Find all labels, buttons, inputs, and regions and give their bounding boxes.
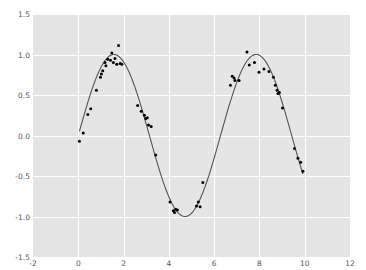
- x-tick-label: 4: [154, 259, 184, 268]
- x-tick-label: 6: [199, 259, 229, 268]
- scatter-point: [78, 140, 81, 143]
- scatter-point: [104, 61, 107, 64]
- scatter-point: [117, 44, 120, 47]
- y-tick-label: 1.5: [0, 10, 30, 19]
- data-layer: [33, 14, 350, 257]
- scatter-point: [140, 110, 143, 113]
- y-tick-label: 0.5: [0, 91, 30, 100]
- scatter-point: [299, 161, 302, 164]
- scatter-point: [100, 72, 103, 75]
- scatter-point: [136, 104, 139, 107]
- scatter-point: [248, 64, 251, 67]
- scatter-point: [281, 106, 284, 109]
- scatter-point: [201, 181, 204, 184]
- x-tick-label: -2: [18, 259, 48, 268]
- scatter-point: [110, 51, 113, 54]
- scatter-point: [272, 76, 275, 79]
- scatter-point: [276, 89, 279, 92]
- scatter-point: [293, 147, 296, 150]
- scatter-point: [168, 200, 171, 203]
- x-tick-label: 10: [290, 259, 320, 268]
- scatter-point: [82, 132, 85, 135]
- scatter-point: [86, 113, 89, 116]
- fitted-curve-line: [79, 55, 302, 217]
- scatter-point: [120, 63, 123, 66]
- chart-figure: -1.5-1.0-0.50.00.51.01.5 -2024681012: [0, 0, 366, 270]
- scatter-point: [267, 70, 270, 73]
- scatter-point: [274, 84, 277, 87]
- x-tick-label: 8: [244, 259, 274, 268]
- scatter-point: [176, 209, 179, 212]
- y-tick-label: -0.5: [0, 172, 30, 181]
- scatter-point: [296, 157, 299, 160]
- scatter-point: [95, 89, 98, 92]
- scatter-point: [195, 204, 198, 207]
- scatter-point: [245, 51, 248, 54]
- scatter-point: [146, 116, 149, 119]
- scatter-point: [112, 61, 115, 64]
- y-tick-label: 1.0: [0, 50, 30, 59]
- scatter-point: [278, 91, 281, 94]
- scatter-point: [143, 114, 146, 117]
- scatter-point: [106, 58, 109, 61]
- scatter-point: [89, 107, 92, 110]
- scatter-point: [238, 79, 241, 82]
- x-tick-label: 0: [63, 259, 93, 268]
- scatter-point: [147, 123, 150, 126]
- scatter-point: [101, 69, 104, 72]
- scatter-point: [109, 59, 112, 62]
- scatter-point: [253, 61, 256, 64]
- scatter-point: [99, 76, 102, 79]
- plot-area: [33, 14, 350, 257]
- y-tick-label: 0.0: [0, 131, 30, 140]
- x-tick-label: 12: [335, 259, 365, 268]
- scatter-point: [150, 125, 153, 128]
- scatter-point: [262, 68, 265, 71]
- y-tick-label: -1.0: [0, 212, 30, 221]
- scatter-point: [173, 211, 176, 214]
- scatter-point: [154, 153, 157, 156]
- scatter-point: [104, 64, 107, 67]
- scatter-point: [199, 205, 202, 208]
- scatter-point: [115, 63, 118, 66]
- scatter-point: [301, 170, 304, 173]
- scatter-point: [233, 79, 236, 82]
- scatter-point: [229, 84, 232, 87]
- scatter-point: [197, 200, 200, 203]
- scatter-point: [113, 57, 116, 60]
- scatter-point: [257, 71, 260, 74]
- x-tick-label: 2: [109, 259, 139, 268]
